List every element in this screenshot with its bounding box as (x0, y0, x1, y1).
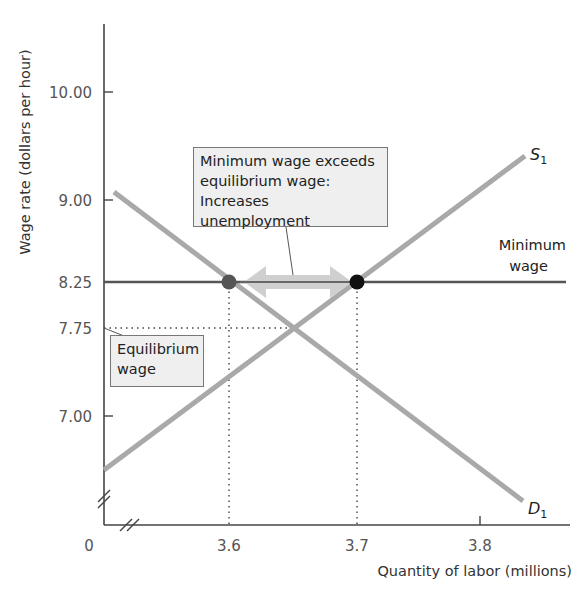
unemployment-callout: Minimum wage exceeds equilibrium wage: I… (193, 147, 388, 227)
equilibrium-callout-line1: Equilibrium (117, 339, 197, 359)
x-tick-0: 0 (84, 537, 94, 555)
y-tick-825: 8.25 (59, 274, 92, 292)
unemployment-callout-line2: equilibrium wage: (200, 171, 381, 191)
equilibrium-callout-line2: wage (117, 359, 197, 379)
unemployment-callout-line1: Minimum wage exceeds (200, 151, 381, 171)
qd-point (222, 275, 237, 290)
y-axis-title: Wage rate (dollars per hour) (17, 49, 33, 254)
chart-canvas: 10.00 9.00 8.25 7.75 7.00 0 3.6 3.7 3.8 … (0, 0, 587, 596)
equilibrium-wage-callout: Equilibrium wage (110, 335, 204, 387)
qs-point (350, 275, 365, 290)
x-tick-38: 3.8 (468, 537, 492, 555)
demand-label: D1 (528, 499, 547, 521)
minimum-wage-label-line2: wage (509, 258, 548, 274)
x-tick-37: 3.7 (345, 537, 369, 555)
y-tick-9: 9.00 (59, 192, 92, 210)
y-tick-775: 7.75 (59, 320, 92, 338)
unemployment-callout-line3: Increases unemployment (200, 191, 381, 231)
minimum-wage-label-line1: Minimum (499, 237, 566, 253)
x-tick-36: 3.6 (217, 537, 241, 555)
x-axis-title: Quantity of labor (millions) (377, 563, 572, 579)
y-tick-7: 7.00 (59, 408, 92, 426)
unemployment-callout-leader (286, 227, 293, 275)
y-tick-10: 10.00 (49, 84, 92, 102)
supply-label: S1 (530, 145, 547, 167)
guide-lines (104, 286, 357, 525)
